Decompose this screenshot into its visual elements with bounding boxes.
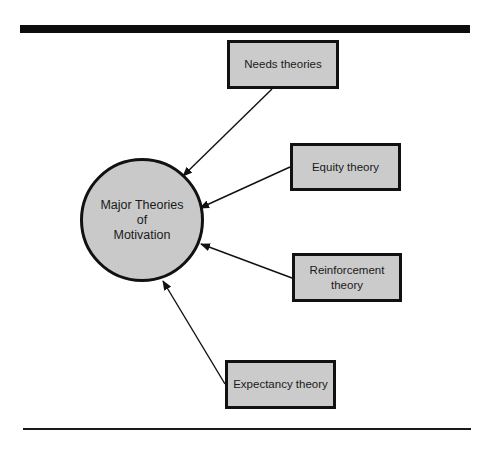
center-line-3: Motivation [100, 228, 183, 243]
theory-box-reinforcement: Reinforcement theory [292, 253, 402, 302]
theory-box-needs: Needs theories [227, 40, 339, 89]
theory-label-line-1: Reinforcement [310, 263, 385, 278]
center-line-1: Major Theories [100, 198, 183, 213]
arrow-expectancy [163, 281, 225, 384]
theory-label-line-2: theory [310, 278, 385, 293]
arrow-needs [183, 89, 272, 176]
central-concept-label: Major Theories of Motivation [100, 198, 183, 243]
arrow-reinforcement [201, 244, 292, 278]
theory-box-expectancy: Expectancy theory [225, 360, 336, 409]
theory-label: Expectancy theory [233, 377, 328, 392]
central-concept-circle: Major Theories of Motivation [80, 158, 204, 282]
center-line-2: of [100, 213, 183, 228]
bottom-rule [23, 428, 471, 430]
arrow-equity [200, 167, 290, 208]
theory-box-equity: Equity theory [290, 143, 401, 191]
theory-label: Equity theory [312, 160, 379, 175]
theory-label: Needs theories [244, 57, 321, 72]
